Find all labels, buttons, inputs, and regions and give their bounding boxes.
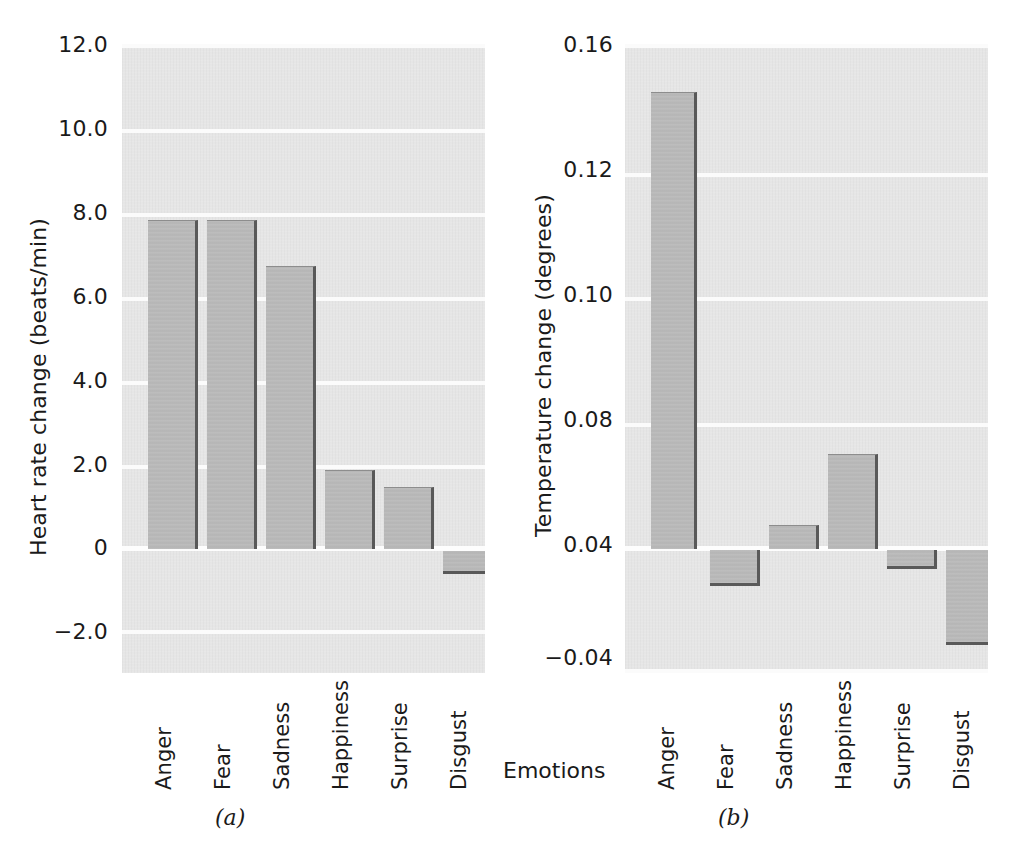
y-tick-a-0: 12.0 — [4, 32, 108, 57]
y-tick-a-5: 2.0 — [4, 452, 108, 477]
y-tick-a-2: 8.0 — [4, 200, 108, 225]
bar-a-fear — [207, 220, 257, 549]
x-tick-b-fear: Fear — [714, 744, 738, 790]
gridline-a-12 — [122, 44, 485, 48]
panel-a: Heart rate change (beats/min) 12.0 10.0 … — [0, 0, 505, 848]
bar-a-anger — [148, 220, 198, 549]
plot-area-b — [625, 44, 988, 673]
x-axis-title: Emotions — [503, 758, 605, 783]
x-tick-b-sadness: Sadness — [773, 702, 797, 790]
x-tick-a-sadness: Sadness — [270, 702, 294, 790]
bar-b-sadness — [769, 525, 819, 549]
bar-a-happiness — [325, 470, 375, 549]
y-tick-a-7: −2.0 — [4, 619, 108, 644]
x-tick-b-disgust: Disgust — [950, 711, 974, 790]
y-tick-b-0: 0.16 — [507, 32, 613, 57]
y-axis-label-b: Temperature change (degrees) — [531, 194, 556, 537]
y-tick-b-1: 0.12 — [507, 157, 613, 182]
plot-area-a — [122, 44, 485, 673]
figure-container: Heart rate change (beats/min) 12.0 10.0 … — [0, 0, 1011, 848]
bar-b-happiness — [828, 454, 878, 549]
gridline-a-8 — [122, 213, 485, 217]
x-tick-b-happiness: Happiness — [832, 680, 856, 790]
y-tick-a-4: 4.0 — [4, 368, 108, 393]
x-tick-b-surprise: Surprise — [891, 702, 915, 790]
panel-caption-b: (b) — [718, 805, 749, 830]
bar-b-disgust — [946, 550, 988, 645]
x-tick-b-anger: Anger — [655, 727, 679, 790]
bar-a-surprise — [384, 487, 434, 549]
gridline-a-10 — [122, 129, 485, 133]
bar-b-anger — [651, 92, 697, 549]
gridline-b-m004 — [625, 669, 988, 673]
x-tick-a-surprise: Surprise — [388, 702, 412, 790]
bar-a-sadness — [266, 266, 316, 549]
y-tick-a-1: 10.0 — [4, 116, 108, 141]
y-tick-b-4: 0.04 — [507, 532, 613, 557]
panel-caption-a: (a) — [215, 805, 245, 830]
y-tick-b-2: 0.10 — [507, 282, 613, 307]
x-tick-a-anger: Anger — [152, 727, 176, 790]
bar-b-surprise — [887, 550, 937, 569]
bar-b-fear — [710, 550, 760, 586]
y-tick-a-3: 6.0 — [4, 284, 108, 309]
panel-b: 0.16 0.12 0.10 0.08 0.04 −0.04 Anger Fea… — [500, 0, 1011, 848]
y-tick-b-5: −0.04 — [507, 645, 613, 670]
bar-a-disgust — [443, 551, 485, 574]
gridline-b-016 — [625, 44, 988, 48]
x-tick-a-fear: Fear — [211, 744, 235, 790]
y-tick-b-3: 0.08 — [507, 407, 613, 432]
y-tick-a-6: 0 — [4, 535, 108, 560]
gridline-a-m2 — [122, 630, 485, 634]
x-tick-a-disgust: Disgust — [447, 711, 471, 790]
x-tick-a-happiness: Happiness — [329, 680, 353, 790]
